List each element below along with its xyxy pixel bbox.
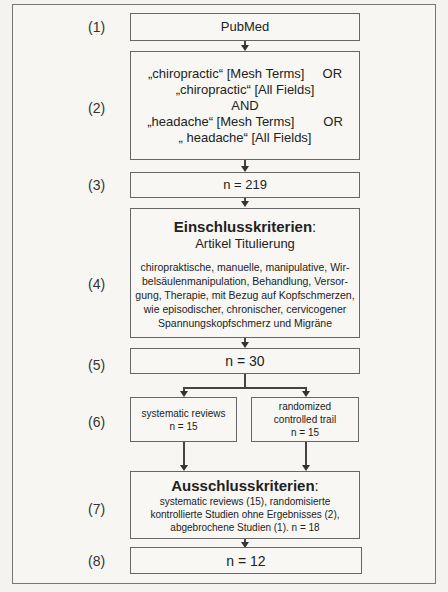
exclusion-title: Ausschlusskriterien — [171, 477, 314, 494]
branch-count: n = 15 — [169, 420, 197, 433]
box-exclusion-criteria: Ausschlusskriterien: systematic reviews … — [130, 471, 360, 539]
query-operator: AND — [231, 98, 258, 114]
title-colon: : — [315, 477, 319, 494]
exclusion-line: abgebrochene Studien (1). n = 18 — [170, 521, 319, 534]
step-label-2: (2) — [88, 100, 105, 116]
inclusion-line: Spannungskopfschmerz und Migräne — [158, 316, 332, 330]
branch-text: randomized — [279, 400, 331, 413]
query-line: „headache“ [Mesh Terms] OR — [147, 114, 343, 130]
box-randomized-controlled-trail: randomized controlled trail n = 15 — [251, 397, 359, 442]
exclusion-heading: Ausschlusskriterien: — [171, 476, 319, 495]
inclusion-heading: Einschlusskriterien: — [174, 217, 317, 236]
connector — [305, 442, 307, 466]
inclusion-title: Einschlusskriterien — [174, 218, 312, 235]
inclusion-line: gung, Therapie, mit Bezug auf Kopfschmer… — [135, 288, 354, 302]
inclusion-line: belsäulenmanipulation, Behandlung, Verso… — [142, 274, 348, 288]
count-text: n = 219 — [223, 177, 267, 193]
inclusion-line: chiropraktische, manuelle, manipulative,… — [141, 260, 350, 274]
connector — [183, 442, 185, 466]
query-line: „chiropractic“ [Mesh Terms] OR — [148, 66, 342, 82]
step-label-4: (4) — [88, 276, 105, 292]
step-label-3: (3) — [88, 177, 105, 193]
step-label-8: (8) — [88, 553, 105, 569]
branch-connector — [183, 387, 306, 389]
branch-text: controlled trail — [274, 413, 336, 426]
exclusion-line: systematic reviews (15), randomisierte — [160, 495, 331, 508]
box-pubmed: PubMed — [130, 13, 360, 41]
step-label-6: (6) — [88, 414, 105, 430]
box-inclusion-criteria: Einschlusskriterien: Artikel Titulierung… — [130, 208, 360, 338]
exclusion-line: kontrollierte Studien ohne Ergebnisses (… — [151, 508, 340, 521]
query-line: „chiropractic“ [All Fields] — [176, 82, 315, 98]
step-label-5: (5) — [88, 357, 105, 373]
box-n-12: n = 12 — [130, 547, 362, 574]
box-n-219: n = 219 — [130, 172, 360, 198]
step-label-1: (1) — [88, 19, 105, 35]
inclusion-subtitle: Artikel Titulierung — [195, 236, 295, 252]
query-line: „ headache“ [All Fields] — [179, 130, 312, 146]
box-n-30: n = 30 — [130, 348, 360, 374]
box-systematic-reviews: systematic reviews n = 15 — [130, 397, 237, 442]
box-search-query: „chiropractic“ [Mesh Terms] OR „chiropra… — [130, 51, 360, 160]
title-colon: : — [312, 218, 316, 235]
step-label-7: (7) — [88, 501, 105, 517]
count-text: n = 12 — [226, 553, 265, 569]
count-text: n = 30 — [225, 353, 264, 369]
branch-text: systematic reviews — [142, 407, 226, 420]
box-text: PubMed — [221, 19, 269, 35]
arrow-down-icon — [241, 201, 249, 207]
connector — [244, 374, 246, 387]
inclusion-line: wie episodischer, chronischer, cervicoge… — [144, 302, 347, 316]
branch-count: n = 15 — [291, 426, 319, 439]
